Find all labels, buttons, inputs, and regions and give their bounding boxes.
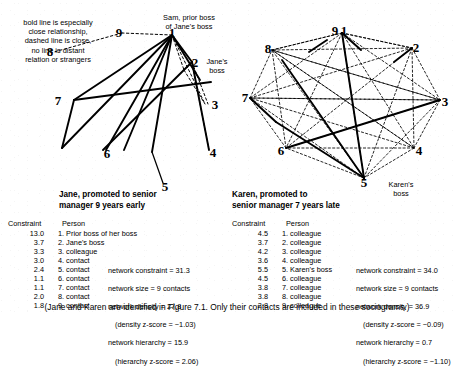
panel-jane-stats: network constraint = 31.3 network size =… — [108, 257, 198, 370]
node-1: 1 — [341, 24, 348, 37]
cell-constraint: 4.5 — [228, 229, 276, 238]
cell-constraint: 2.0 — [4, 292, 52, 301]
node-2: 2 — [192, 56, 199, 69]
table-row: 3.7 2. Jane's boss — [4, 238, 226, 247]
cell-person: 6. contact — [52, 274, 90, 283]
panel-karen-table-header: Constraint Person — [228, 219, 454, 228]
cell-person: 3. colleague — [276, 247, 321, 256]
node-8: 8 — [265, 42, 272, 55]
cell-constraint: 1.1 — [4, 274, 52, 283]
annotation-sam-prior-boss: Sam, prior boss of Jane's boss — [150, 13, 228, 31]
stat-network-size: network size = 9 contacts — [356, 284, 451, 293]
node-2: 2 — [413, 41, 420, 54]
cell-constraint: 3.0 — [4, 256, 52, 265]
node-6: 6 — [278, 144, 285, 157]
cell-person: 8. colleague — [276, 292, 321, 301]
cell-person: 7. colleague — [276, 283, 321, 292]
cell-constraint: 3.8 — [228, 292, 276, 301]
panel-karen-stats: network constraint = 34.0 network size =… — [356, 257, 451, 370]
cell-constraint: 3.6 — [228, 256, 276, 265]
node-4: 4 — [210, 146, 217, 159]
table-row: 3.7 2. colleague — [228, 238, 454, 247]
stat-hierarchy-zscore: (hierarchy z-score = 2.06) — [108, 357, 198, 366]
cell-constraint: 3.3 — [4, 247, 52, 256]
cell-person: 5. contact — [52, 265, 90, 274]
cell-constraint: 3.7 — [228, 238, 276, 247]
node-4: 4 — [416, 144, 423, 157]
legend-note: bold line is especially close relationsh… — [6, 18, 110, 64]
sociogram-karen: 1 2 3 4 5 6 7 8 9 Karen's boss — [224, 0, 454, 195]
panel-karen-rows: 4.5 1. colleague 3.7 2. colleague 4.2 3.… — [228, 229, 454, 310]
cell-person: 1. colleague — [276, 229, 321, 238]
node-5: 5 — [361, 176, 368, 189]
node-3: 3 — [212, 98, 219, 111]
table-row: 13.0 1. Prior boss of her boss — [4, 229, 226, 238]
cell-person: 2. colleague — [276, 238, 321, 247]
stat-network-hierarchy: network hierarchy = 15.9 — [108, 338, 198, 347]
cell-person: 1. Prior boss of her boss — [52, 229, 137, 238]
stat-network-hierarchy: network hierarchy = 0.7 — [356, 338, 451, 347]
sociogram-karen-graph — [224, 0, 454, 195]
table-row: 4.5 1. colleague — [228, 229, 454, 238]
cell-person: 4. colleague — [276, 256, 321, 265]
column-header-person: Person — [280, 219, 309, 228]
cell-person: 6. colleague — [276, 274, 321, 283]
panel-jane-title: Jane, promoted to senior manager 9 years… — [59, 190, 226, 211]
cell-person: 4. contact — [52, 256, 90, 265]
stat-density-zscore: (density z-score = −0.09) — [356, 320, 451, 329]
cell-constraint: 3.7 — [4, 238, 52, 247]
stat-density-zscore: (density z-score = −1.03) — [108, 320, 198, 329]
node-7: 7 — [55, 94, 62, 107]
column-header-constraint: Constraint — [4, 219, 56, 228]
stat-network-size: network size = 9 contacts — [108, 284, 198, 293]
node-3: 3 — [442, 95, 449, 108]
stat-network-constraint: network constraint = 34.0 — [356, 266, 451, 275]
cell-constraint: 4.5 — [228, 274, 276, 283]
panel-jane-rows: 13.0 1. Prior boss of her boss 3.7 2. Ja… — [4, 229, 226, 310]
table-row: 3.3 3. colleague — [4, 247, 226, 256]
stat-hierarchy-zscore: (hierarchy z-score = −1.10) — [356, 357, 451, 366]
cell-person: 5. Karen's boss — [276, 265, 332, 274]
stat-network-constraint: network constraint = 31.3 — [108, 266, 198, 275]
cell-person: 3. colleague — [52, 247, 97, 256]
node-6: 6 — [104, 147, 111, 160]
panel-jane-table-header: Constraint Person — [4, 219, 226, 228]
cell-person: 7. contact — [52, 283, 90, 292]
cell-constraint: 2.4 — [4, 265, 52, 274]
node-9: 9 — [116, 26, 123, 39]
panel-karen-title: Karen, promoted to senior manager 7 year… — [232, 190, 454, 211]
cell-person: 2. Jane's boss — [52, 238, 104, 247]
panel-jane: Jane, promoted to senior manager 9 years… — [4, 190, 226, 310]
cell-constraint: 3.8 — [228, 283, 276, 292]
node-7: 7 — [242, 91, 249, 104]
cell-person: 8. contact — [52, 292, 90, 301]
figure-caption: (Jane and Karen are identified in Figure… — [0, 302, 454, 313]
column-header-constraint: Constraint — [228, 219, 280, 228]
cell-constraint: 5.5 — [228, 265, 276, 274]
cell-constraint: 1.1 — [4, 283, 52, 292]
cell-constraint: 4.2 — [228, 247, 276, 256]
column-header-person: Person — [56, 219, 85, 228]
table-row: 4.2 3. colleague — [228, 247, 454, 256]
panel-karen: Karen, promoted to senior manager 7 year… — [228, 190, 454, 310]
cell-constraint: 13.0 — [4, 229, 52, 238]
node-9: 9 — [332, 24, 339, 37]
